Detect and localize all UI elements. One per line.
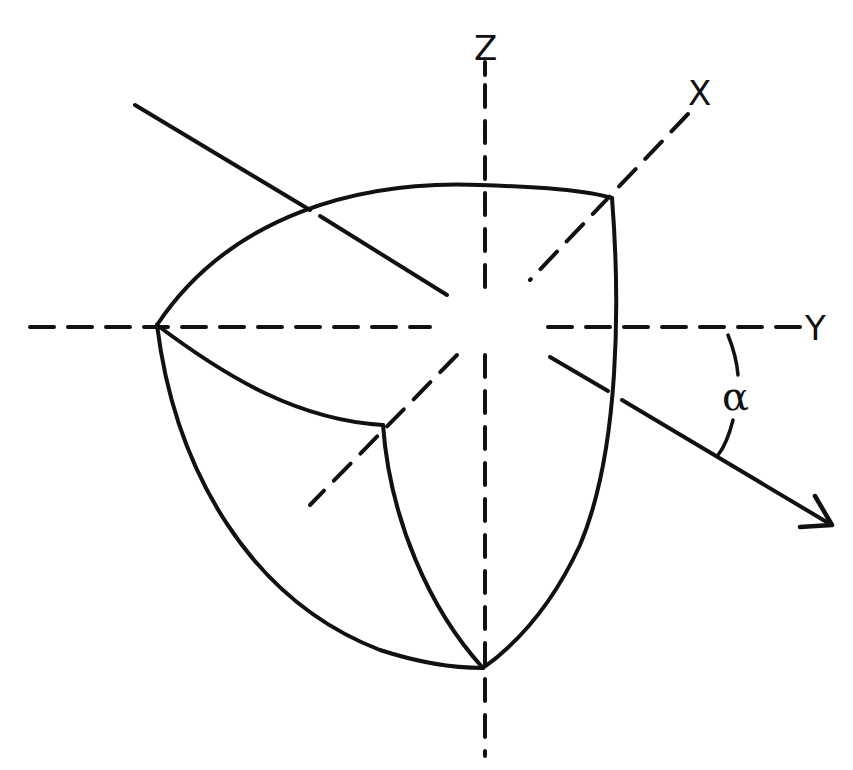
z-axis-label: Z xyxy=(474,28,497,68)
x-axis-label: X xyxy=(688,73,711,113)
y-axis-label: Y xyxy=(804,308,826,348)
diagram-canvas: Z X Y α xyxy=(0,0,853,770)
angle-alpha-label: α xyxy=(722,373,749,419)
